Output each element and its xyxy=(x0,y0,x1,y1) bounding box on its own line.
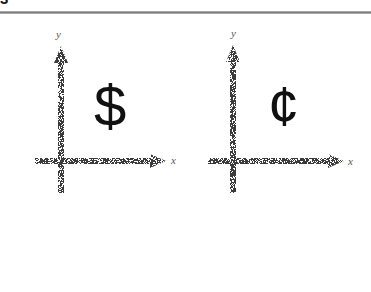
x-axis-line xyxy=(35,158,153,164)
cent-x-axis-label: x xyxy=(348,156,353,167)
y-arrowhead-icon xyxy=(54,46,68,63)
cent-sign-icon: ¢ xyxy=(268,78,299,134)
y-arrowhead-icon xyxy=(226,45,240,62)
x-axis-line xyxy=(208,158,330,164)
dollar-sign-icon: $ xyxy=(94,77,126,135)
dollar-x-axis-label: x xyxy=(171,155,176,166)
cent-y-axis-label: y xyxy=(231,28,236,39)
y-axis-line xyxy=(58,60,64,193)
y-axis-line xyxy=(230,60,236,193)
axes-drawing xyxy=(0,0,371,292)
x-arrowhead-icon xyxy=(150,154,166,168)
dollar-y-axis-label: y xyxy=(56,29,61,40)
x-arrowhead-icon xyxy=(328,154,344,168)
